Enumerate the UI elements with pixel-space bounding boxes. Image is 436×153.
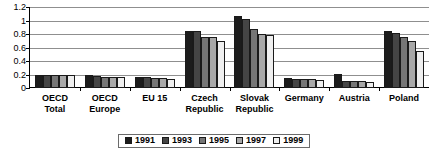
bar-chart: 1.210.80.60.40.20 OECDTotalOECDEuropeEU … — [0, 0, 436, 153]
bar — [334, 74, 342, 88]
legend-swatch-icon — [125, 137, 132, 144]
bar-group — [30, 7, 80, 88]
bar — [342, 81, 350, 88]
x-category-label: OECDTotal — [30, 93, 80, 115]
bar-group — [230, 7, 280, 88]
x-category-label-line: Republic — [230, 104, 280, 115]
x-category-label: EU 15 — [130, 93, 180, 104]
bar — [284, 78, 292, 88]
bar — [109, 77, 117, 88]
bar — [316, 80, 324, 88]
x-category-label: Austria — [329, 93, 379, 104]
legend-swatch-icon — [273, 137, 280, 144]
bar-group — [180, 7, 230, 88]
bar-group — [279, 7, 329, 88]
x-axis-labels: OECDTotalOECDEuropeEU 15CzechRepublicSlo… — [30, 93, 429, 125]
y-axis-labels: 1.210.80.60.40.20 — [0, 0, 26, 95]
bar — [242, 19, 250, 88]
bar — [292, 79, 300, 88]
legend-label: 1999 — [283, 136, 303, 145]
legend-item: 1997 — [236, 136, 266, 145]
bar — [117, 77, 125, 88]
bar — [358, 81, 366, 88]
bar — [234, 16, 242, 88]
legend-swatch-icon — [162, 137, 169, 144]
bar — [67, 75, 75, 88]
x-category-label-line: Austria — [329, 93, 379, 104]
x-axis-tick — [230, 88, 231, 91]
x-axis-tick — [279, 88, 280, 91]
bar — [59, 75, 67, 88]
x-category-label-line: Poland — [379, 93, 429, 104]
bar — [308, 79, 316, 88]
legend-label: 1991 — [135, 136, 155, 145]
bar — [193, 31, 201, 88]
bar — [159, 78, 167, 88]
legend-label: 1995 — [209, 136, 229, 145]
bar — [93, 76, 101, 88]
bar — [217, 41, 225, 88]
bar — [366, 82, 374, 88]
bar — [101, 77, 109, 88]
bar-group — [130, 7, 180, 88]
legend-item: 1999 — [273, 136, 303, 145]
y-tick-label: 0 — [21, 84, 26, 93]
y-tick-label: 1.2 — [13, 3, 26, 12]
bar — [85, 75, 93, 88]
x-category-label: Germany — [279, 93, 329, 104]
x-category-label: SlovakRepublic — [230, 93, 280, 115]
y-tick-label: 0.2 — [13, 71, 26, 80]
x-category-label-line: Republic — [180, 104, 230, 115]
legend-swatch-icon — [199, 137, 206, 144]
bar — [266, 35, 274, 88]
bar — [143, 77, 151, 88]
x-category-label-line: Total — [30, 104, 80, 115]
y-tick-label: 1 — [21, 17, 26, 26]
x-axis-tick — [130, 88, 131, 91]
x-category-label-line: Slovak — [230, 93, 280, 104]
x-category-label: CzechRepublic — [180, 93, 230, 115]
bar-group — [329, 7, 379, 88]
x-axis-tick — [80, 88, 81, 91]
chart-legend: 19911993199519971999 — [118, 134, 310, 148]
bar — [384, 31, 392, 88]
bar — [185, 31, 193, 88]
bar — [209, 37, 217, 88]
x-category-label: OECDEurope — [80, 93, 130, 115]
x-axis-tick — [329, 88, 330, 91]
bar — [258, 34, 266, 88]
x-category-label: Poland — [379, 93, 429, 104]
bar — [201, 37, 209, 88]
x-axis-tick — [180, 88, 181, 91]
bar — [35, 75, 43, 89]
x-category-label-line: Czech — [180, 93, 230, 104]
bar — [392, 33, 400, 88]
y-axis-tick — [26, 88, 30, 89]
x-category-label-line: EU 15 — [130, 93, 180, 104]
bar — [300, 79, 308, 88]
bar-group — [379, 7, 429, 88]
y-tick-label: 0.6 — [13, 44, 26, 53]
y-tick-label: 0.4 — [13, 57, 26, 66]
legend-item: 1993 — [162, 136, 192, 145]
bar — [167, 79, 175, 88]
legend-label: 1993 — [172, 136, 192, 145]
bar — [416, 51, 424, 88]
x-category-label-line: OECD — [30, 93, 80, 104]
x-category-label-line: Germany — [279, 93, 329, 104]
bar — [151, 78, 159, 88]
bar — [43, 75, 51, 88]
bar — [135, 77, 143, 88]
legend-label: 1997 — [246, 136, 266, 145]
x-category-label-line: Europe — [80, 104, 130, 115]
x-axis-tick — [379, 88, 380, 91]
x-category-label-line: OECD — [80, 93, 130, 104]
bar — [250, 29, 258, 88]
legend-swatch-icon — [236, 137, 243, 144]
legend-item: 1995 — [199, 136, 229, 145]
bar — [400, 37, 408, 88]
bar-groups — [30, 7, 429, 88]
bar-group — [80, 7, 130, 88]
bar — [408, 41, 416, 88]
legend-item: 1991 — [125, 136, 155, 145]
